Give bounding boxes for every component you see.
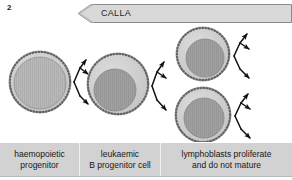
cell-lymphoblast-bottom <box>175 87 231 142</box>
cell-leukaemic-b-progenitor <box>87 53 149 115</box>
calla-banner: CALLA <box>78 4 292 24</box>
cell-haemopoietic-progenitor <box>9 51 71 113</box>
figure-number: 2 <box>7 3 11 12</box>
branch-arrows-4 <box>235 94 250 138</box>
caption-line-1: leukaemic <box>89 149 150 160</box>
branch-arrows-3 <box>234 34 249 78</box>
branch-arrows-1 <box>74 60 88 104</box>
figure-panel: 2 CALLA <box>0 0 292 180</box>
caption-leukaemic-b-progenitor: leukaemic B progenitor cell <box>79 143 160 176</box>
cell-diagram-stage <box>0 24 292 142</box>
cell-lymphoblast-top <box>176 27 230 81</box>
caption-line-2: and do not mature <box>182 160 272 171</box>
caption-line-2: B progenitor cell <box>89 160 150 171</box>
caption-line-1: lymphoblasts proliferate <box>182 149 272 160</box>
branch-arrows-2 <box>152 62 166 110</box>
caption-line-2: progenitor <box>14 160 65 171</box>
calla-label: CALLA <box>101 8 131 18</box>
caption-haemopoietic-progenitor: haemopoietic progenitor <box>0 143 79 176</box>
caption-lymphoblasts: lymphoblasts proliferate and do not matu… <box>160 143 292 176</box>
caption-line-1: haemopoietic <box>14 149 65 160</box>
caption-band: haemopoietic progenitor leukaemic B prog… <box>0 142 292 176</box>
cell-diagram-svg <box>0 24 292 142</box>
panel-bottom-edge <box>0 176 292 180</box>
